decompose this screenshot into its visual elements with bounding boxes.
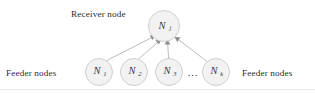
edge-n3-to-nj	[165, 39, 171, 58]
feeder-node-2-label: N	[127, 65, 136, 76]
receiver-node[interactable]: N j	[149, 11, 180, 42]
edge-n1-to-nj	[107, 35, 156, 60]
node-graph-figure: N j N 1 N 2 N 3 N k	[0, 0, 315, 94]
feeder-node-k-subscript: k	[220, 70, 223, 77]
receiver-node-caption: Receiver node	[71, 9, 126, 19]
receiver-node-label: N	[157, 20, 166, 31]
receiver-node-subscript: j	[169, 24, 172, 31]
feeder-node-3[interactable]: N 3	[156, 59, 183, 86]
diagram-canvas: N j N 1 N 2 N 3 N k	[0, 0, 315, 94]
edge-nk-to-nj	[174, 37, 207, 62]
feeder-node-1[interactable]: N 1	[86, 59, 113, 86]
feeder-node-k-label: N	[209, 65, 218, 76]
feeder-node-3-label: N	[162, 65, 171, 76]
feeder-nodes-caption-left: Feeder nodes	[6, 68, 57, 78]
feeder-node-k[interactable]: N k	[203, 59, 230, 86]
feeder-node-1-label: N	[92, 65, 101, 76]
node-sequence-ellipsis: ...	[188, 66, 199, 78]
arrow-head-icon	[174, 37, 180, 42]
feeder-nodes-caption-right: Feeder nodes	[242, 68, 293, 78]
feeder-node-1-subscript: 1	[103, 70, 106, 77]
feeder-node-3-subscript: 3	[172, 70, 177, 77]
feeder-node-2[interactable]: N 2	[121, 59, 148, 86]
feeder-node-group: N 1 N 2 N 3 N k	[86, 59, 230, 86]
